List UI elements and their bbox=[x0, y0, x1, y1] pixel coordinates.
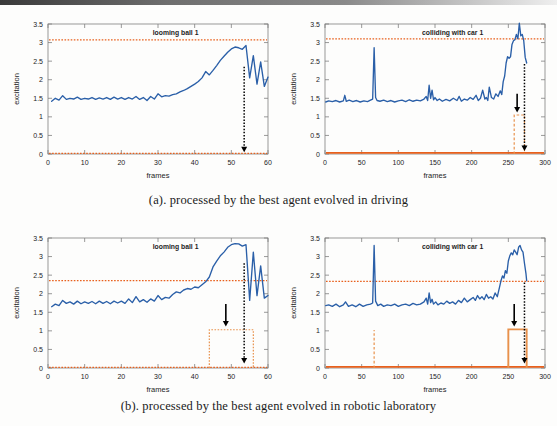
y-tick-label: 1.5 bbox=[33, 95, 43, 102]
x-tick-label: 0 bbox=[323, 159, 327, 166]
arrow-head-solid-event-arrow bbox=[511, 321, 517, 327]
y-tick-label: 3 bbox=[39, 39, 43, 46]
x-tick-label: 20 bbox=[117, 373, 125, 380]
y-tick-label: 1 bbox=[316, 327, 320, 334]
x-tick-label: 50 bbox=[227, 373, 235, 380]
x-tick-label: 50 bbox=[358, 159, 366, 166]
y-tick-label: 2.5 bbox=[33, 58, 43, 65]
y-axis-title: excitation bbox=[289, 73, 298, 105]
x-tick-label: 100 bbox=[392, 159, 404, 166]
figure-panel-a: 010203040506000.511.522.533.5framesexcit… bbox=[0, 8, 557, 190]
y-tick-label: 1 bbox=[316, 113, 320, 120]
y-tick-label: 0 bbox=[39, 151, 43, 158]
x-tick-label: 40 bbox=[191, 159, 199, 166]
x-tick-label: 50 bbox=[358, 373, 366, 380]
chart-chart-b-right: 05010015020025030000.511.522.533.5frames… bbox=[285, 222, 557, 404]
x-tick-label: 100 bbox=[392, 373, 404, 380]
x-tick-label: 250 bbox=[502, 373, 514, 380]
chart-title: looming ball 1 bbox=[153, 29, 199, 37]
y-tick-label: 2.5 bbox=[310, 272, 320, 279]
y-tick-label: 2 bbox=[316, 76, 320, 83]
plot-frame bbox=[48, 24, 268, 154]
x-tick-label: 30 bbox=[154, 159, 162, 166]
figure-panel-b: 010203040506000.511.522.533.5framesexcit… bbox=[0, 222, 557, 402]
y-tick-label: 3.5 bbox=[33, 21, 43, 28]
y-tick-label: 3 bbox=[316, 39, 320, 46]
x-axis-title: frames bbox=[424, 385, 447, 394]
x-tick-label: 60 bbox=[264, 159, 272, 166]
arrow-head-dotted-event-arrow bbox=[521, 146, 527, 152]
x-axis-title: frames bbox=[147, 171, 170, 180]
signal-line-excitation bbox=[326, 245, 527, 306]
y-tick-label: 0.5 bbox=[310, 132, 320, 139]
y-tick-label: 1.5 bbox=[310, 309, 320, 316]
arrow-head-solid-event-arrow bbox=[514, 107, 520, 113]
x-tick-label: 50 bbox=[227, 159, 235, 166]
y-tick-label: 2.5 bbox=[33, 272, 43, 279]
chart-container-b-left: 010203040506000.511.522.533.5framesexcit… bbox=[8, 222, 280, 404]
y-tick-label: 0 bbox=[316, 151, 320, 158]
y-tick-label: 3 bbox=[39, 253, 43, 260]
y-tick-label: 2 bbox=[39, 290, 43, 297]
arrow-head-solid-event-arrow bbox=[223, 321, 229, 327]
chart-chart-b-left: 010203040506000.511.522.533.5framesexcit… bbox=[8, 222, 280, 404]
chart-chart-a-right: 05010015020025030000.511.522.533.5frames… bbox=[285, 8, 557, 190]
scan-edge-artifact bbox=[0, 0, 557, 5]
x-tick-label: 20 bbox=[117, 159, 125, 166]
x-tick-label: 200 bbox=[466, 159, 478, 166]
y-tick-label: 2 bbox=[316, 290, 320, 297]
figure-caption-a: (a). processed by the best agent evolved… bbox=[0, 193, 557, 208]
signal-line-excitation bbox=[52, 46, 268, 102]
chart-container-a-left: 010203040506000.511.522.533.5framesexcit… bbox=[8, 8, 280, 190]
x-tick-label: 0 bbox=[46, 373, 50, 380]
x-axis-title: frames bbox=[424, 171, 447, 180]
y-tick-label: 2 bbox=[39, 76, 43, 83]
y-tick-label: 3.5 bbox=[310, 235, 320, 242]
y-tick-label: 0 bbox=[316, 365, 320, 372]
x-tick-label: 10 bbox=[81, 159, 89, 166]
y-tick-label: 1.5 bbox=[33, 309, 43, 316]
arrow-head-dotted-event-arrow bbox=[241, 358, 247, 364]
y-axis-title: excitation bbox=[12, 73, 21, 105]
x-tick-label: 300 bbox=[539, 373, 551, 380]
x-tick-label: 60 bbox=[264, 373, 272, 380]
step-pulse-response-pulse bbox=[209, 330, 253, 368]
y-axis-title: excitation bbox=[289, 287, 298, 319]
x-tick-label: 300 bbox=[539, 159, 551, 166]
x-tick-label: 150 bbox=[429, 159, 441, 166]
y-tick-label: 0.5 bbox=[310, 346, 320, 353]
figure-caption-b: (b). processed by the best agent evolved… bbox=[0, 399, 557, 414]
x-tick-label: 0 bbox=[323, 373, 327, 380]
x-tick-label: 40 bbox=[191, 373, 199, 380]
chart-title: colliding with car 1 bbox=[422, 29, 483, 37]
chart-container-a-right: 05010015020025030000.511.522.533.5frames… bbox=[285, 8, 557, 190]
y-tick-label: 0.5 bbox=[33, 132, 43, 139]
y-tick-label: 3.5 bbox=[310, 21, 320, 28]
x-axis-title: frames bbox=[147, 385, 170, 394]
y-tick-label: 1 bbox=[39, 113, 43, 120]
chart-title: looming ball 1 bbox=[153, 243, 199, 251]
x-tick-label: 150 bbox=[429, 373, 441, 380]
arrow-head-dotted-event-arrow bbox=[241, 147, 247, 153]
x-tick-label: 200 bbox=[466, 373, 478, 380]
signal-line-excitation bbox=[52, 244, 268, 307]
y-tick-label: 0.5 bbox=[33, 346, 43, 353]
y-axis-title: excitation bbox=[12, 287, 21, 319]
x-tick-label: 10 bbox=[81, 373, 89, 380]
x-tick-label: 0 bbox=[46, 159, 50, 166]
chart-chart-a-left: 010203040506000.511.522.533.5framesexcit… bbox=[8, 8, 280, 190]
y-tick-label: 1 bbox=[39, 327, 43, 334]
y-tick-label: 1.5 bbox=[310, 95, 320, 102]
x-tick-label: 250 bbox=[502, 159, 514, 166]
y-tick-label: 0 bbox=[39, 365, 43, 372]
chart-container-b-right: 05010015020025030000.511.522.533.5frames… bbox=[285, 222, 557, 404]
y-tick-label: 3.5 bbox=[33, 235, 43, 242]
y-tick-label: 2.5 bbox=[310, 58, 320, 65]
chart-title: colliding with car 1 bbox=[422, 243, 483, 251]
x-tick-label: 30 bbox=[154, 373, 162, 380]
y-tick-label: 3 bbox=[316, 253, 320, 260]
